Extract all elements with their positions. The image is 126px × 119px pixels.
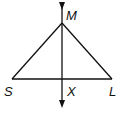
label-s: S bbox=[4, 84, 13, 99]
label-l: L bbox=[109, 84, 116, 99]
label-m: M bbox=[66, 8, 77, 23]
segment-sm bbox=[12, 23, 62, 79]
geometry-figure: M S X L bbox=[0, 0, 126, 119]
segment-ml bbox=[62, 23, 112, 79]
label-x: X bbox=[66, 84, 77, 99]
